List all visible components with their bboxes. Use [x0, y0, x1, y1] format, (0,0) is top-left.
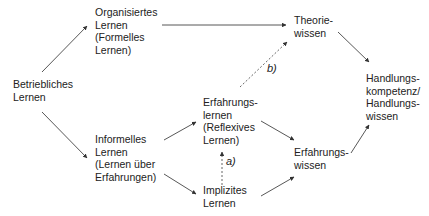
node-informelles-lernen: Informelles Lernen (Lernen über Erfahrun…	[95, 133, 156, 183]
arrow-erfahrungswissen-handlung	[351, 125, 369, 153]
node-erfahrungswissen: Erfahrungs- wissen	[294, 146, 349, 171]
node-betriebliches-lernen: Betriebliches Lernen	[13, 78, 73, 103]
diagram-canvas: Betriebliches Lernen Organisiertes Lerne…	[0, 0, 429, 216]
edge-label-a: a)	[226, 155, 236, 167]
arrow-erfahrungslernen-erfahrungswissen	[261, 121, 294, 140]
arrow-betrieblich-informell	[42, 112, 87, 158]
arrow-informell-implizit	[164, 174, 196, 194]
dashed-arrow-erfahrungslernen-theorie	[240, 42, 287, 87]
arrow-theorie-handlung	[338, 32, 369, 62]
node-erfahrungslernen: Erfahrungs- lernen (Reflexives Lernen)	[203, 96, 258, 146]
node-organisiertes-lernen: Organisiertes Lernen (Formelles Lernen)	[95, 6, 157, 56]
edge-label-b: b)	[267, 62, 277, 74]
arrow-betrieblich-organisiert	[42, 26, 87, 72]
arrow-implizit-erfahrungswissen	[261, 177, 294, 196]
arrow-informell-erfahrungslernen	[164, 122, 196, 140]
node-implizites-lernen: Implizites Lernen	[203, 184, 247, 209]
node-handlungskompetenz: Handlungs- kompetenz/ Handlungs- wissen	[366, 72, 420, 122]
node-theoriewissen: Theorie- wissen	[294, 14, 333, 39]
